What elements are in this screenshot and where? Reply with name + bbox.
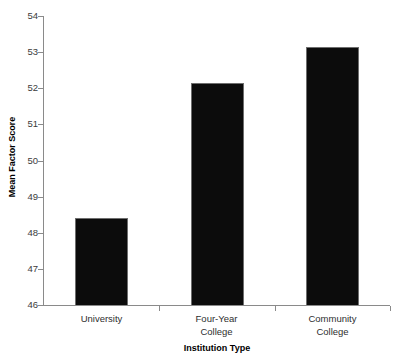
y-axis-tick-label: 54 [16,11,38,21]
x-axis-tick-mark [390,306,391,311]
bar [306,47,359,305]
x-axis-tick-mark [159,306,160,311]
x-axis-tick-mark [275,306,276,311]
x-axis-tick-label: Four-YearCollege [159,313,274,338]
y-axis-tick-label: 46 [16,300,38,310]
x-axis-tick-label-line: Four-Year [159,313,274,326]
x-axis-tick-label: University [44,313,159,326]
x-axis-line [43,305,390,306]
bar [191,83,244,305]
x-axis-tick-label-line: College [275,326,390,339]
x-axis-tick-label-line: University [44,313,159,326]
bar-chart: Mean Factor Score 464748495051525354 Uni… [0,0,398,359]
x-axis-tick-label: CommunityCollege [275,313,390,338]
y-axis-tick-label: 51 [16,119,38,129]
x-axis-title: Institution Type [44,343,390,353]
y-axis-tick-label: 53 [16,47,38,57]
x-axis-tick-label-line: Community [275,313,390,326]
y-axis-tick-label: 50 [16,156,38,166]
plot-area [44,16,390,305]
y-axis-tick-labels: 464748495051525354 [16,0,38,359]
y-axis-tick-label: 52 [16,83,38,93]
y-axis-tick-label: 49 [16,192,38,202]
y-axis-tick-label: 48 [16,228,38,238]
bar [75,218,128,305]
y-axis-tick-label: 47 [16,264,38,274]
x-axis-tick-label-line: College [159,326,274,339]
